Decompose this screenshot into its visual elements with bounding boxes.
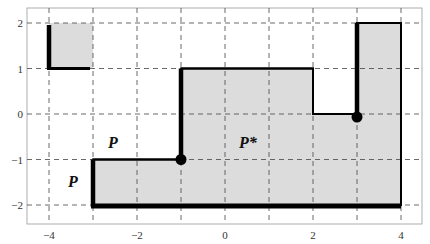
label-p-lower: P [67, 173, 78, 190]
svg-text:0: 0 [222, 229, 228, 241]
svg-text:−1: −1 [11, 154, 23, 166]
vertex-point [352, 112, 363, 123]
svg-text:4: 4 [398, 229, 404, 241]
label-p-upper: P [107, 134, 118, 151]
vertex-point [176, 154, 187, 165]
x-axis-ticks: −4 −2 0 2 4 [43, 229, 404, 241]
svg-text:2: 2 [18, 17, 24, 29]
label-p-star: P* [238, 134, 258, 151]
svg-text:0: 0 [18, 108, 24, 120]
svg-text:−2: −2 [11, 199, 23, 211]
svg-text:−2: −2 [131, 229, 143, 241]
y-axis-ticks: −2 −1 0 1 2 [11, 17, 23, 211]
svg-text:2: 2 [310, 229, 316, 241]
diagram-plot: P P P* −4 −2 0 2 4 −2 −1 0 1 2 [0, 0, 430, 244]
svg-text:1: 1 [18, 63, 24, 75]
small-square-region [49, 23, 93, 69]
svg-text:−4: −4 [43, 229, 55, 241]
